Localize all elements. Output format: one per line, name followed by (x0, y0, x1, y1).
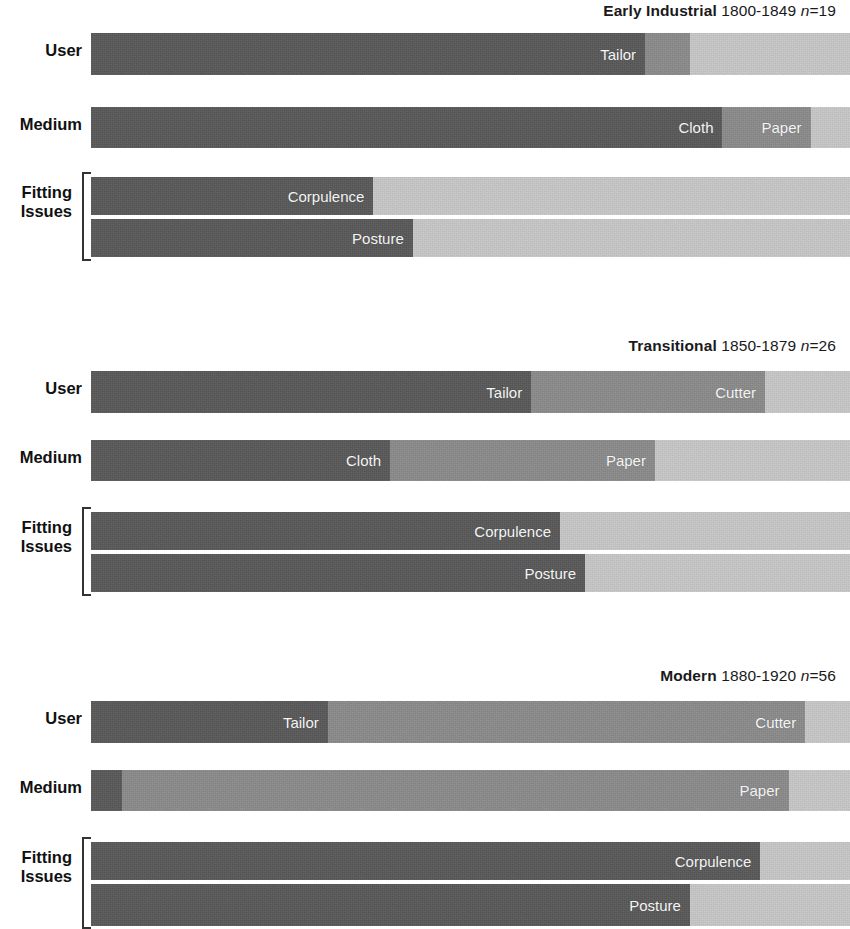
fitting-label-line2: Issues (0, 537, 72, 556)
segment-label: Paper (606, 452, 655, 469)
segment-label: Posture (352, 230, 413, 247)
segment-posture[interactable]: Posture (91, 219, 413, 257)
segment-corpulence[interactable]: Corpulence (91, 842, 760, 880)
panel-n-value: =56 (809, 667, 836, 684)
segment-label: Cutter (755, 714, 805, 731)
segment-remainder[interactable] (560, 512, 850, 550)
segment-label: Corpulence (474, 523, 560, 540)
row-label-medium: Medium (0, 449, 82, 467)
fitting-issues-bracket (82, 507, 91, 596)
row-label-fitting-issues: Fitting Issues (0, 848, 72, 887)
bar-user[interactable]: Tailor Cutter (91, 371, 850, 413)
segment-remainder[interactable] (690, 884, 850, 926)
segment-posture[interactable]: Posture (91, 554, 585, 592)
segment-label: Tailor (486, 384, 531, 401)
segment-corpulence[interactable]: Corpulence (91, 512, 560, 550)
fitting-label-line2: Issues (0, 867, 72, 886)
bar-posture[interactable]: Posture (91, 219, 850, 257)
bar-user[interactable]: Tailor Cutter (91, 701, 850, 743)
segment-cutter[interactable]: Cutter (328, 701, 805, 743)
panel-n-value: =26 (809, 337, 836, 354)
panel-heading-transitional: Transitional 1850-1879 n=26 (629, 337, 836, 355)
segment-label: Tailor (283, 714, 328, 731)
bar-corpulence[interactable]: Corpulence (91, 177, 850, 215)
row-label-medium: Medium (0, 116, 82, 134)
panel-era-name: Modern (660, 667, 717, 684)
segment-label: Cloth (678, 119, 722, 136)
segment-label: Corpulence (675, 853, 761, 870)
segment-paper[interactable]: Paper (390, 440, 655, 481)
bar-posture[interactable]: Posture (91, 554, 850, 592)
segment-label: Corpulence (288, 188, 374, 205)
segment-middle[interactable] (645, 33, 690, 75)
segment-paper[interactable]: Paper (722, 107, 810, 148)
segment-label: Paper (761, 119, 810, 136)
bar-medium[interactable]: Cloth Paper (91, 107, 850, 148)
segment-tailor[interactable]: Tailor (91, 371, 531, 413)
segment-label: Posture (524, 565, 585, 582)
segment-remainder[interactable] (690, 33, 850, 75)
panel-year-range: 1880-1920 (721, 667, 796, 684)
segment-label: Cloth (346, 452, 390, 469)
panel-era-name: Transitional (629, 337, 717, 354)
bar-medium[interactable]: Cloth Paper (91, 440, 850, 481)
segment-posture[interactable]: Posture (91, 884, 690, 926)
row-label-fitting-issues: Fitting Issues (0, 183, 72, 222)
segment-tailor[interactable]: Tailor (91, 701, 328, 743)
row-label-medium: Medium (0, 779, 82, 797)
segment-paper[interactable]: Paper (122, 770, 788, 811)
row-label-user: User (0, 710, 82, 728)
fitting-label-line1: Fitting (0, 518, 72, 537)
fitting-issues-bracket (82, 837, 91, 929)
bar-posture[interactable]: Posture (91, 884, 850, 926)
segment-cutter[interactable]: Cutter (531, 371, 765, 413)
segment-remainder[interactable] (655, 440, 850, 481)
segment-label: Cutter (715, 384, 765, 401)
segment-tailor[interactable]: Tailor (91, 33, 645, 75)
segment-cloth[interactable]: Cloth (91, 107, 722, 148)
segment-label: Tailor (600, 46, 645, 63)
fitting-issues-bracket (82, 172, 91, 261)
bar-medium[interactable]: Paper (91, 770, 850, 811)
fitting-label-line1: Fitting (0, 183, 72, 202)
panel-heading-early-industrial: Early Industrial 1800-1849 n=19 (603, 2, 836, 20)
panel-heading-modern: Modern 1880-1920 n=56 (660, 667, 836, 685)
panel-era-name: Early Industrial (603, 2, 717, 19)
segment-remainder[interactable] (760, 842, 850, 880)
segment-remainder[interactable] (413, 219, 850, 257)
panel-year-range: 1800-1849 (721, 2, 796, 19)
segment-label: Posture (629, 897, 690, 914)
segment-remainder[interactable] (373, 177, 850, 215)
row-label-user: User (0, 42, 82, 60)
panel-n-value: =19 (809, 2, 836, 19)
row-label-user: User (0, 380, 82, 398)
segment-remainder[interactable] (811, 107, 850, 148)
fitting-label-line1: Fitting (0, 848, 72, 867)
bar-corpulence[interactable]: Corpulence (91, 512, 850, 550)
fitting-label-line2: Issues (0, 202, 72, 221)
segment-remainder[interactable] (765, 371, 850, 413)
segment-remainder[interactable] (789, 770, 850, 811)
segment-corpulence[interactable]: Corpulence (91, 177, 373, 215)
bar-corpulence[interactable]: Corpulence (91, 842, 850, 880)
segment-remainder[interactable] (585, 554, 850, 592)
row-label-fitting-issues: Fitting Issues (0, 518, 72, 557)
segment-cloth[interactable]: Cloth (91, 440, 390, 481)
segment-label: Paper (739, 782, 788, 799)
bar-user[interactable]: Tailor (91, 33, 850, 75)
segment-remainder[interactable] (805, 701, 850, 743)
segment-cloth[interactable] (91, 770, 122, 811)
panel-year-range: 1850-1879 (721, 337, 796, 354)
